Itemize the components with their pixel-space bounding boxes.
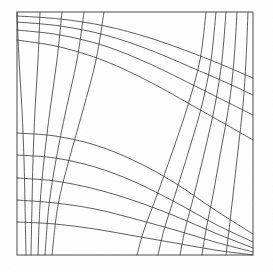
- figure-root: Distorted curvilinear grid Scanned line …: [0, 0, 273, 272]
- grid-curve-v-curve-3: [38, 12, 62, 255]
- grid-curve-v-curve-10: [226, 12, 248, 255]
- grid-curve-v-curve-9: [202, 12, 237, 255]
- warped-grid-canvas: [0, 0, 273, 272]
- grid-curve-u-curve-8: [17, 200, 253, 252]
- grid-curve-v-curve-8: [180, 12, 226, 255]
- grid-curve-v-curve-7: [158, 12, 216, 255]
- horizontal-curve-family: [17, 16, 253, 255]
- figure-border-rect: [17, 12, 253, 255]
- grid-curve-v-curve-6: [137, 12, 206, 255]
- grid-curve-u-curve-7: [17, 178, 253, 248]
- grid-curve-u-curve-2: [17, 22, 253, 95]
- grid-curve-v-curve-5: [52, 12, 104, 255]
- grid-curve-u-curve-3: [17, 30, 253, 115]
